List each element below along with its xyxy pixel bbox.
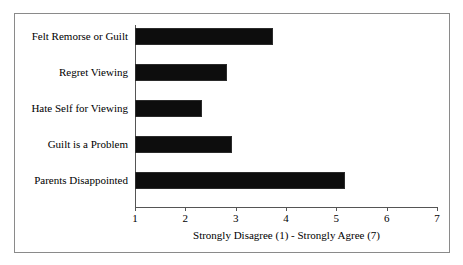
x-tick-label: 7 — [427, 212, 447, 224]
x-tick-mark — [236, 207, 237, 211]
x-tick-label: 6 — [377, 212, 397, 224]
figure-root: Felt Remorse or GuiltRegret ViewingHate … — [0, 0, 463, 265]
category-label: Regret Viewing — [0, 66, 128, 78]
x-tick-label: 4 — [276, 212, 296, 224]
x-tick-mark — [286, 207, 287, 211]
x-tick-mark — [185, 207, 186, 211]
category-label: Parents Disappointed — [0, 174, 128, 186]
x-tick-mark — [387, 207, 388, 211]
x-tick-label: 1 — [125, 212, 145, 224]
bar — [135, 172, 345, 189]
x-tick-mark — [437, 207, 438, 211]
bar — [135, 136, 232, 153]
x-tick-label: 5 — [326, 212, 346, 224]
bar — [135, 64, 227, 81]
x-tick-label: 3 — [226, 212, 246, 224]
category-label: Guilt is a Problem — [0, 138, 128, 150]
x-tick-mark — [135, 207, 136, 211]
category-label: Hate Self for Viewing — [0, 102, 128, 114]
category-label: Felt Remorse or Guilt — [0, 30, 128, 42]
x-axis-title: Strongly Disagree (1) - Strongly Agree (… — [135, 229, 438, 242]
bar — [135, 100, 202, 117]
x-tick-label: 2 — [175, 212, 195, 224]
x-tick-mark — [336, 207, 337, 211]
bar — [135, 28, 273, 45]
